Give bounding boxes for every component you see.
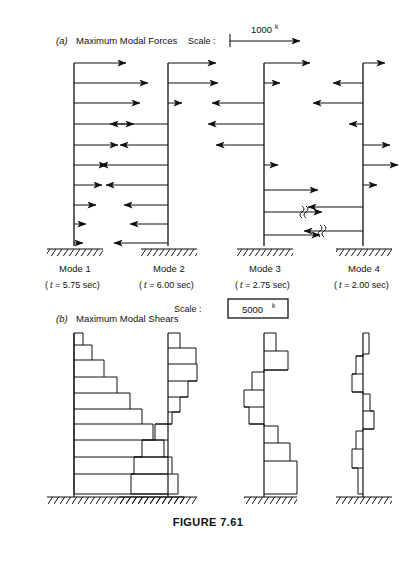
time-value: = 2.75 sec): [245, 280, 290, 290]
shear-diagram-mode-4: [336, 333, 392, 504]
mode-label-2: Mode 2: [153, 263, 185, 274]
force-arrow-broken: [264, 206, 322, 218]
time-variable: t: [240, 280, 243, 290]
shear-scale-unit: k: [272, 302, 276, 309]
shear-diagram-mode-1: [47, 333, 184, 504]
force-diagram-mode-4: [304, 63, 398, 256]
section-a-header: (a) Maximum Modal Forces: [56, 35, 178, 46]
shear-step-outline-mode-1: [74, 333, 178, 494]
mode-labels: Mode 1 Mode 2 Mode 3 Mode 4 ( t = 5.75 s…: [45, 263, 389, 290]
mode-label-4: Mode 4: [348, 263, 380, 274]
ground-hatch-mode-1: [47, 249, 103, 256]
paren-open: (: [235, 280, 238, 290]
time-variable: t: [339, 280, 342, 290]
force-scale-indicator: Scale : 1000 k: [188, 23, 300, 47]
shear-diagram-mode-3: [244, 333, 297, 504]
mode-period-2: ( t = 6.00 sec): [139, 280, 194, 290]
section-b-header: (b) Maximum Modal Shears: [56, 313, 179, 324]
time-value: = 2.00 sec): [344, 280, 389, 290]
time-value: = 5.75 sec): [55, 280, 100, 290]
time-variable: t: [50, 280, 53, 290]
section-b-letter: (b): [56, 313, 68, 324]
section-a-title: Maximum Modal Forces: [76, 35, 178, 46]
paren-open: (: [334, 280, 337, 290]
mode-period-4: ( t = 2.00 sec): [334, 280, 389, 290]
shear-step-outline-mode-2: [131, 333, 197, 494]
section-a-letter: (a): [56, 35, 68, 46]
shear-scale-value: 5000: [242, 304, 263, 315]
force-scale-value: 1000: [251, 24, 272, 35]
ground-hatch-shear-2: [119, 497, 197, 504]
force-diagram-mode-3: [208, 63, 322, 256]
section-b-title: Maximum Modal Shears: [76, 313, 179, 324]
mode-label-3: Mode 3: [249, 263, 281, 274]
figure-caption: FIGURE 7.61: [173, 516, 243, 528]
shear-step-outline-mode-3: [244, 333, 297, 494]
force-scale-label: Scale :: [188, 36, 216, 46]
paren-open: (: [45, 280, 48, 290]
paren-open: (: [139, 280, 142, 290]
ground-hatch-mode-3: [237, 249, 293, 256]
mode-label-1: Mode 1: [59, 263, 91, 274]
force-scale-unit: k: [275, 23, 279, 30]
force-diagram-mode-1: [47, 63, 148, 256]
shear-diagram-mode-2: [119, 333, 197, 504]
mode-period-3: ( t = 2.75 sec): [235, 280, 290, 290]
mode-period-1: ( t = 5.75 sec): [45, 280, 100, 290]
figure-container: (a) Maximum Modal Forces Scale : 1000 k: [0, 0, 417, 577]
shear-scale-indicator: Scale : 5000 k: [174, 299, 288, 318]
ground-hatch-mode-4: [336, 249, 392, 256]
figure-svg: (a) Maximum Modal Forces Scale : 1000 k: [0, 0, 417, 577]
time-variable: t: [144, 280, 147, 290]
time-value: = 6.00 sec): [149, 280, 194, 290]
ground-hatch-shear-4: [336, 497, 392, 504]
ground-hatch-shear-3: [244, 497, 297, 504]
ground-hatch-mode-2: [141, 249, 197, 256]
force-diagram-mode-2: [100, 63, 218, 256]
